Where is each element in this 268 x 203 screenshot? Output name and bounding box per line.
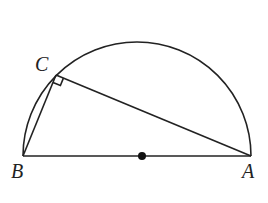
segment-bc [23,75,56,156]
label-a: A [240,160,255,182]
segment-ca [56,75,251,156]
label-c: C [35,53,49,75]
semicircle-arc [23,42,251,156]
label-b: B [11,160,23,182]
geometry-diagram: C B A [0,0,268,203]
center-dot [138,152,146,160]
